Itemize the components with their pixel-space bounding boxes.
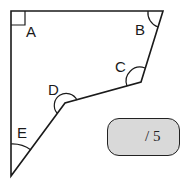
label-B: B <box>135 21 145 38</box>
right-angle-marker-A <box>11 11 25 25</box>
label-D: D <box>48 81 59 98</box>
pentagon-diagram: A B C D E <box>0 0 193 190</box>
angle-arc-E <box>11 144 31 150</box>
score-total-label: / 5 <box>145 128 160 145</box>
label-E: E <box>17 124 27 141</box>
label-A: A <box>26 23 36 40</box>
angle-arc-B <box>148 11 158 27</box>
label-C: C <box>115 58 126 75</box>
score-input-box[interactable] <box>107 118 180 156</box>
